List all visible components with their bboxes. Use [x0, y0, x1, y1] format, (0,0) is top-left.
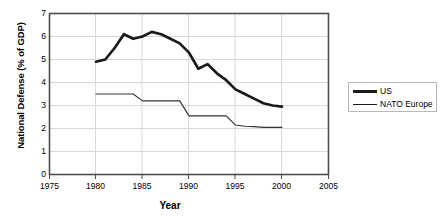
legend-entry-us: US	[353, 85, 392, 98]
legend-label-nato-europe: NATO Europe	[380, 100, 433, 109]
x-axis-title: Year	[0, 200, 340, 211]
x-tick-label-1980: 1980	[79, 182, 113, 191]
chart-legend: US NATO Europe	[348, 82, 437, 112]
x-tick-label-1985: 1985	[125, 182, 159, 191]
chart-container: National Defense (% of GDP) 7 6 5 4 3 2 …	[0, 0, 447, 223]
legend-entry-nato-europe: NATO Europe	[353, 98, 433, 111]
x-tick-label-1975: 1975	[33, 182, 67, 191]
x-tick-label-1990: 1990	[172, 182, 206, 191]
x-tick-label-2005: 2005	[312, 182, 346, 191]
legend-label-us: US	[380, 87, 392, 96]
legend-swatch-nato-europe-icon	[353, 104, 377, 105]
x-tick-label-2000: 2000	[265, 182, 299, 191]
legend-swatch-us-icon	[353, 90, 377, 93]
x-tick-label-1995: 1995	[218, 182, 252, 191]
